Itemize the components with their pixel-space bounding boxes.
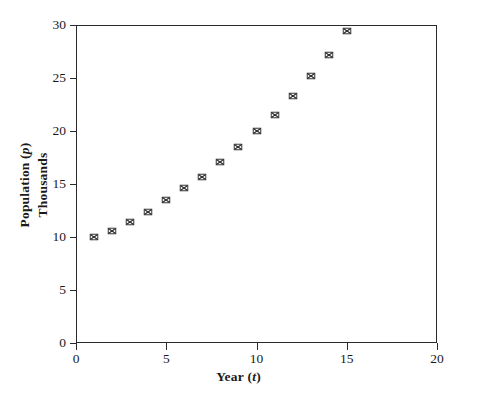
y-axis-title-variable: p (17, 147, 32, 154)
x-axis-tick-label-text: 5 (163, 352, 170, 366)
x-axis-title-paren-close: ) (256, 369, 261, 384)
plot-area-frame (76, 25, 437, 343)
data-point-marker (108, 227, 117, 234)
data-point-marker (126, 219, 135, 226)
data-point-marker (270, 112, 279, 119)
y-axis-tick-label-text: 10 (53, 230, 67, 244)
y-axis-tick (70, 78, 77, 79)
y-axis-tick-label-text: 20 (53, 124, 67, 138)
x-axis-tick (437, 343, 438, 350)
y-axis-tick (70, 25, 77, 26)
y-axis-tick-label-text: 25 (53, 71, 67, 85)
x-axis-tick-label-text: 15 (340, 352, 354, 366)
data-point-marker (180, 185, 189, 192)
y-axis-tick (70, 131, 77, 132)
scatter-chart-figure: 051015202530 05101520 Year (t) Populatio… (0, 0, 477, 394)
y-axis-subtitle-text: Thousands (35, 153, 50, 218)
data-point-marker (162, 196, 171, 203)
data-point-marker (324, 51, 333, 58)
y-axis-tick (70, 237, 77, 238)
data-point-marker (90, 234, 99, 241)
y-axis-title-text: Population (17, 162, 32, 227)
y-axis-tick-label-text: 5 (59, 283, 66, 297)
x-axis-tick-label-text: 10 (250, 352, 264, 366)
data-point-marker (234, 143, 243, 150)
data-point-marker (198, 173, 207, 180)
y-axis-subtitle: Thousands (35, 115, 51, 255)
data-point-marker (144, 208, 153, 215)
data-point-marker (216, 158, 225, 165)
data-point-marker (342, 28, 351, 35)
data-point-marker (288, 93, 297, 100)
y-axis-tick-label-text: 0 (59, 336, 66, 350)
y-axis-tick-label-text: 15 (53, 177, 67, 191)
y-axis-tick-label-text: 30 (53, 18, 67, 32)
data-point-marker (252, 128, 261, 135)
x-axis-tick-label-text: 0 (73, 352, 80, 366)
y-axis-tick (70, 290, 77, 291)
x-axis-title: Year (t) (0, 369, 477, 385)
x-axis-tick (76, 343, 77, 350)
x-axis-tick (347, 343, 348, 350)
x-axis-tick (166, 343, 167, 350)
data-point-marker (306, 72, 315, 79)
y-axis-tick (70, 184, 77, 185)
x-axis-tick (257, 343, 258, 350)
y-axis-title-paren-open: ( (17, 154, 32, 162)
x-axis-title-paren-open: ( (244, 369, 252, 384)
x-axis-tick-label-text: 20 (430, 352, 444, 366)
y-axis-title: Population (p) (17, 115, 33, 255)
y-axis-title-paren-close: ) (17, 143, 32, 148)
x-axis-title-text: Year (216, 369, 244, 384)
